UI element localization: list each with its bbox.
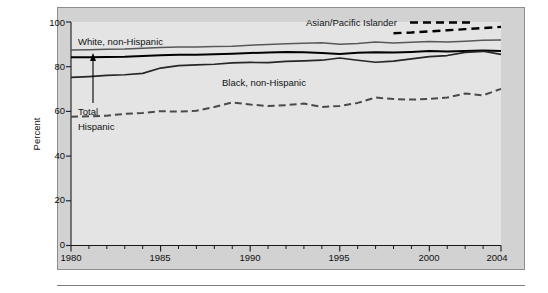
series-line-hispanic <box>71 89 501 117</box>
x-tick-label-2004: 2004 <box>486 252 507 263</box>
x-tick-label-1980: 1980 <box>60 252 81 263</box>
y-tick-label-40: 40 <box>54 150 65 161</box>
y-tick-labels: 100 80 60 40 20 0 <box>49 17 65 250</box>
annotation-total: Total <box>78 106 98 117</box>
y-axis-title: Percent <box>31 117 42 150</box>
x-tick-labels: 1980 1985 1990 1995 2000 2004 <box>60 252 507 263</box>
y-axis-ticks <box>66 22 71 246</box>
annotation-black-non-hispanic: Black, non-Hispanic <box>222 77 306 88</box>
y-tick-label-80: 80 <box>54 61 65 72</box>
annotation-asian-pacific-islander: Asian/Pacific Islander <box>306 17 397 28</box>
footer-rule <box>57 285 525 286</box>
annotation-white-non-hispanic: White, non-Hispanic <box>78 36 163 47</box>
annotation-hispanic: Hispanic <box>78 121 115 132</box>
total-arrow <box>90 53 96 103</box>
figure-root: 100 80 60 40 20 0 Percent 1980 1985 1990… <box>0 0 548 293</box>
x-tick-label-1985: 1985 <box>149 252 170 263</box>
series-line-black-non-hispanic <box>71 51 501 77</box>
line-chart: 100 80 60 40 20 0 Percent 1980 1985 1990… <box>0 0 548 293</box>
x-tick-label-1990: 1990 <box>239 252 260 263</box>
series-line-asian-pacific-islander <box>394 27 502 33</box>
y-tick-label-0: 0 <box>60 239 65 250</box>
x-tick-label-1995: 1995 <box>328 252 349 263</box>
y-tick-label-60: 60 <box>54 105 65 116</box>
y-tick-label-20: 20 <box>54 194 65 205</box>
x-tick-label-2000: 2000 <box>418 252 439 263</box>
y-tick-label-100: 100 <box>49 17 65 28</box>
